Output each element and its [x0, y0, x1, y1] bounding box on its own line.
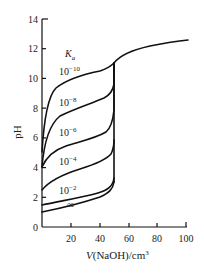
x-axis-title: V(NaOH)/cm3 [86, 249, 149, 262]
label-ka-1e-4: 10−4 [59, 155, 77, 167]
x-tick-60: 60 [124, 233, 134, 244]
x-tick-labels: 20 40 60 80 100 [66, 233, 194, 244]
y-tick-labels: 0 2 4 6 8 10 12 14 [28, 14, 38, 233]
y-tick-14: 14 [28, 14, 38, 25]
y-tick-10: 10 [28, 73, 38, 84]
ka-title: Ka [64, 48, 76, 62]
label-ka-1e-6: 10−6 [59, 126, 77, 138]
x-tick-20: 20 [66, 233, 76, 244]
y-tick-8: 8 [33, 103, 38, 114]
label-ka-1e-8: 10−8 [59, 96, 77, 108]
titration-chart: 0 2 4 6 8 10 12 14 20 40 60 80 100 pH V(… [0, 0, 204, 274]
label-ka-inf: ∞ [67, 199, 74, 210]
label-ka-1e-2: 10−2 [59, 184, 77, 196]
y-tick-6: 6 [33, 132, 38, 143]
curve-labels: 10−10 10−8 10−6 10−4 10−2 ∞ [59, 65, 80, 210]
y-tick-12: 12 [28, 43, 38, 54]
curve-ka-1e-6 [42, 63, 114, 167]
curve-ka-1e-8 [42, 63, 114, 167]
x-tick-80: 80 [152, 233, 162, 244]
curve-ka-1e-2 [42, 178, 114, 205]
y-axis-title: pH [11, 125, 23, 139]
curve-excess-base [114, 40, 188, 63]
y-tick-0: 0 [33, 222, 38, 233]
ka-title-sub: a [72, 54, 76, 62]
x-tick-100: 100 [179, 233, 194, 244]
label-ka-1e-10: 10−10 [59, 65, 80, 77]
curve-ka-1e-4 [42, 140, 114, 190]
x-axis-title-rest: (NaOH)/cm [93, 249, 146, 262]
y-tick-2: 2 [33, 192, 38, 203]
x-tick-40: 40 [95, 233, 105, 244]
y-tick-4: 4 [33, 162, 38, 173]
x-axis-title-sup: 3 [145, 249, 149, 257]
